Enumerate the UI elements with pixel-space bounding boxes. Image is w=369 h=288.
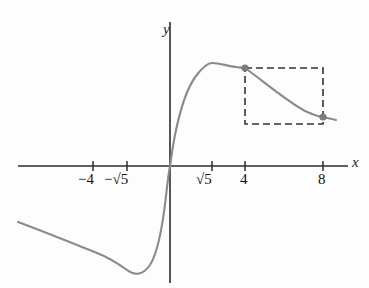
tick-label-sqrt5: √5 (196, 172, 212, 187)
tick-label-neg-4: −4 (78, 172, 94, 187)
plot-canvas (0, 0, 369, 288)
tick-label-4: 4 (240, 172, 248, 187)
point-marker-x4 (241, 64, 248, 71)
tick-label-neg-sqrt5: −√5 (104, 172, 128, 187)
function-curve-main (18, 63, 336, 274)
tick-label-8: 8 (318, 172, 326, 187)
x-axis-label: x (352, 155, 359, 170)
point-marker-x8 (319, 113, 326, 120)
function-graph-figure: y x −4 −√5 √5 4 8 (0, 0, 369, 288)
y-axis-label: y (163, 22, 170, 37)
